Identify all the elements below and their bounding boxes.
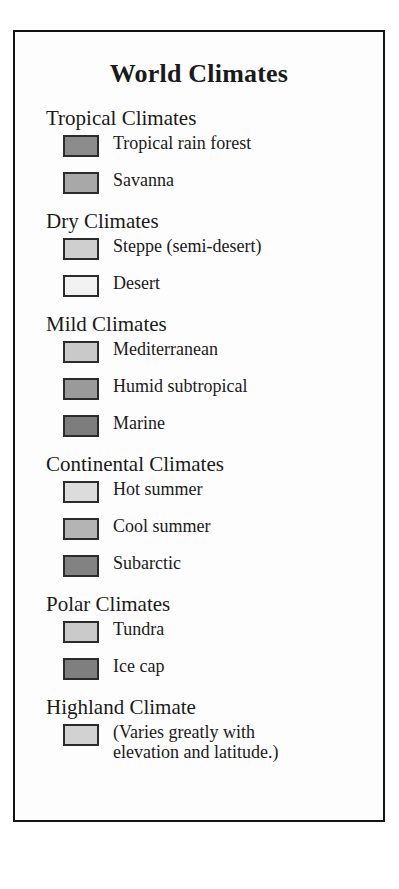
- color-swatch: [63, 481, 99, 503]
- color-swatch: [63, 341, 99, 363]
- legend-item-label: (Varies greatly with elevation and latit…: [113, 722, 323, 762]
- legend-row: Mediterranean: [46, 339, 383, 376]
- legend-item-label: Steppe (semi-desert): [113, 236, 261, 257]
- legend-row: (Varies greatly with elevation and latit…: [46, 722, 383, 768]
- legend-item-label: Cool summer: [113, 516, 211, 537]
- legend-item-label: Humid subtropical: [113, 376, 247, 397]
- color-swatch: [63, 724, 99, 746]
- legend-row: Ice cap: [46, 656, 383, 693]
- color-swatch: [63, 378, 99, 400]
- legend-row: Hot summer: [46, 479, 383, 516]
- legend-row: Steppe (semi-desert): [46, 236, 383, 273]
- legend-groups: Tropical ClimatesTropical rain forestSav…: [15, 106, 383, 768]
- legend-item-label: Savanna: [113, 170, 174, 191]
- climate-group: Polar ClimatesTundraIce cap: [46, 592, 383, 693]
- color-swatch: [63, 518, 99, 540]
- climate-group-header: Polar Climates: [46, 592, 383, 617]
- climate-group-header: Continental Climates: [46, 452, 383, 477]
- legend-row: Marine: [46, 413, 383, 450]
- climate-group-header: Dry Climates: [46, 209, 383, 234]
- legend-item-label: Tropical rain forest: [113, 133, 251, 154]
- color-swatch: [63, 238, 99, 260]
- color-swatch: [63, 415, 99, 437]
- climate-group: Tropical ClimatesTropical rain forestSav…: [46, 106, 383, 207]
- legend-title: World Climates: [15, 59, 383, 89]
- climate-group: Mild ClimatesMediterraneanHumid subtropi…: [46, 312, 383, 450]
- legend-row: Tundra: [46, 619, 383, 656]
- color-swatch: [63, 135, 99, 157]
- legend-item-label: Ice cap: [113, 656, 164, 677]
- legend-item-label: Hot summer: [113, 479, 203, 500]
- climate-group: Dry ClimatesSteppe (semi-desert)Desert: [46, 209, 383, 310]
- climate-group-header: Mild Climates: [46, 312, 383, 337]
- legend-item-label: Marine: [113, 413, 165, 434]
- legend-item-label: Subarctic: [113, 553, 181, 574]
- climate-legend-panel: World Climates Tropical ClimatesTropical…: [13, 30, 385, 822]
- color-swatch: [63, 621, 99, 643]
- color-swatch: [63, 555, 99, 577]
- legend-row: Cool summer: [46, 516, 383, 553]
- climate-group: Highland Climate(Varies greatly with ele…: [46, 695, 383, 768]
- color-swatch: [63, 658, 99, 680]
- legend-item-label: Mediterranean: [113, 339, 218, 360]
- legend-item-label: Tundra: [113, 619, 164, 640]
- climate-group-header: Tropical Climates: [46, 106, 383, 131]
- legend-row: Subarctic: [46, 553, 383, 590]
- climate-group: Continental ClimatesHot summerCool summe…: [46, 452, 383, 590]
- color-swatch: [63, 172, 99, 194]
- legend-row: Desert: [46, 273, 383, 310]
- legend-item-label: Desert: [113, 273, 160, 294]
- legend-row: Humid subtropical: [46, 376, 383, 413]
- legend-row: Tropical rain forest: [46, 133, 383, 170]
- climate-group-header: Highland Climate: [46, 695, 383, 720]
- legend-row: Savanna: [46, 170, 383, 207]
- color-swatch: [63, 275, 99, 297]
